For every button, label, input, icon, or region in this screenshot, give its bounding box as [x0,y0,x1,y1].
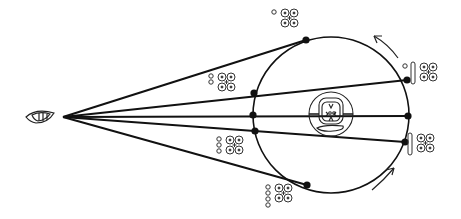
orbit-circle [253,37,409,193]
sight-lines [63,40,408,185]
day-sign-glyphs [209,9,437,207]
day-sign-glyph-icon [272,9,298,27]
day-sign-glyph-icon [408,133,434,155]
position-point [303,181,310,188]
arrow-counterclockwise-icon [374,36,398,58]
position-point [404,112,411,119]
sight-line [63,40,306,117]
position-points [249,36,411,188]
position-point [249,111,256,118]
day-sign-glyph-icon [209,73,235,91]
sun-glyph-icon [309,92,353,136]
position-point [403,76,410,83]
position-point [251,127,258,134]
day-sign-glyph-icon [266,184,292,207]
position-point [302,36,309,43]
sight-line [63,117,307,185]
venus-cycle-diagram [0,0,461,219]
eye-icon [26,111,54,123]
day-sign-glyph-icon [217,136,243,154]
position-point [250,89,257,96]
sight-line [63,116,408,117]
